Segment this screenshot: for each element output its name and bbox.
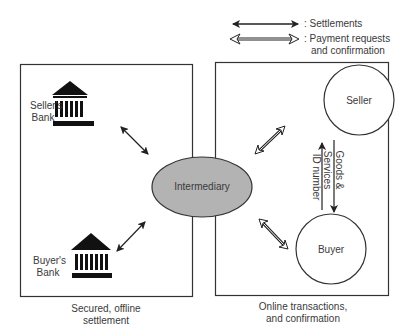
buyer-bank-label-1: Buyer's (33, 255, 63, 267)
left-caption-1: Secured, offline (56, 303, 156, 315)
legend-settlements-label: : Settlements (304, 18, 362, 30)
seller-label: Seller (324, 95, 394, 107)
goods-services-label-2: Services (321, 145, 333, 195)
buyer-bank-label-2: Bank (33, 267, 63, 279)
right-caption-1: Online transactions, (253, 301, 353, 313)
seller-bank-label-1: Seller's (30, 100, 56, 112)
legend-payment-label-1: : Payment requests (304, 33, 390, 45)
buyer-payment-arrow (259, 219, 288, 249)
buyer-bank-settlement-arrow (117, 222, 145, 251)
seller-bank-label-2: Bank (30, 112, 56, 124)
legend-payment-label-2: and confirmation (311, 45, 385, 57)
buyer-label: Buyer (296, 244, 366, 256)
legend-payment-arrow (230, 34, 299, 44)
left-caption-2: settlement (56, 315, 156, 327)
seller-bank-settlement-arrow (121, 127, 148, 154)
goods-services-label-1: Goods & (333, 145, 345, 195)
intermediary-label: Intermediary (152, 181, 252, 193)
buyer-bank-icon (71, 233, 112, 278)
seller-payment-arrow (255, 126, 285, 154)
right-caption-2: and confirmation (253, 313, 353, 325)
